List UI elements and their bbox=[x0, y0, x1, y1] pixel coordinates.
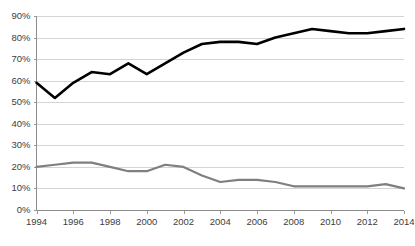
y-axis-tick-labels: 0%10%20%30%40%50%60%70%80%90% bbox=[11, 10, 36, 215]
x-tick-label: 2012 bbox=[357, 216, 378, 227]
y-tick-label: 40% bbox=[11, 118, 31, 129]
x-tick-label: 2002 bbox=[173, 216, 194, 227]
x-tick-label: 2008 bbox=[283, 216, 304, 227]
data-series-group bbox=[37, 29, 405, 189]
x-tick-label: 1994 bbox=[26, 216, 47, 227]
x-tick-label: 2006 bbox=[246, 216, 267, 227]
x-tick-label: 1998 bbox=[99, 216, 120, 227]
series-line-lower-series bbox=[37, 163, 405, 189]
x-axis-tick-labels: 1994199619982000200220042006200820102012… bbox=[26, 211, 415, 227]
series-line-upper-series bbox=[37, 29, 405, 98]
x-tick-label: 2014 bbox=[393, 216, 414, 227]
y-tick-label: 80% bbox=[11, 32, 31, 43]
y-tick-label: 20% bbox=[11, 161, 31, 172]
y-tick-label: 0% bbox=[17, 204, 31, 215]
line-chart: 0%10%20%30%40%50%60%70%80%90% 1994199619… bbox=[0, 0, 415, 246]
y-tick-label: 90% bbox=[11, 10, 31, 21]
y-tick-label: 60% bbox=[11, 75, 31, 86]
y-tick-label: 50% bbox=[11, 96, 31, 107]
x-tick-label: 2010 bbox=[320, 216, 341, 227]
chart-container: 0%10%20%30%40%50%60%70%80%90% 1994199619… bbox=[0, 0, 415, 246]
y-tick-label: 30% bbox=[11, 139, 31, 150]
x-tick-label: 2000 bbox=[136, 216, 157, 227]
x-tick-label: 1996 bbox=[63, 216, 84, 227]
y-tick-label: 70% bbox=[11, 53, 31, 64]
x-tick-label: 2004 bbox=[210, 216, 231, 227]
y-tick-label: 10% bbox=[11, 182, 31, 193]
